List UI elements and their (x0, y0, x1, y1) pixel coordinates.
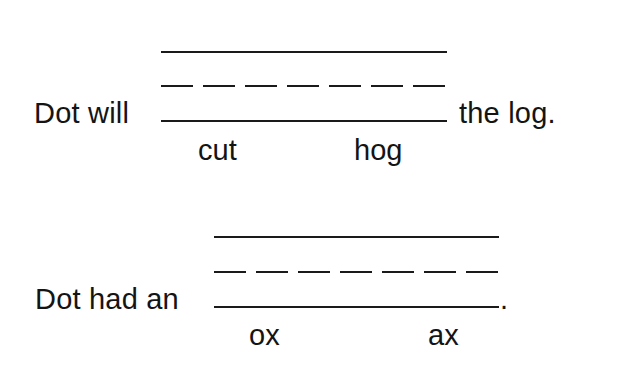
answer-blank-line[interactable] (214, 306, 499, 308)
answer-blank-line[interactable] (161, 120, 447, 122)
writing-guide-top-line (161, 51, 447, 53)
sentence-suffix: the log. (459, 99, 556, 128)
writing-guide-midline (161, 85, 447, 87)
answer-choice[interactable]: ox (249, 321, 280, 350)
answer-choice[interactable]: ax (428, 321, 459, 350)
writing-guide-midline (214, 271, 499, 273)
sentence-prefix: Dot had an (35, 285, 179, 314)
writing-guide-top-line (214, 236, 499, 238)
sentence-prefix: Dot will (34, 99, 129, 128)
answer-choice[interactable]: cut (198, 136, 237, 165)
answer-choice[interactable]: hog (354, 136, 402, 165)
sentence-suffix: . (500, 285, 508, 314)
